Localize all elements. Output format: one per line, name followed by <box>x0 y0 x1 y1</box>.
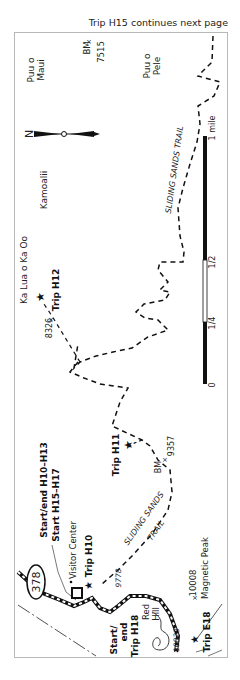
trail-map: 378 ★ ★ ★ ★ N 0 1/4 1/2 1 mile Puu o Mau… <box>0 0 240 680</box>
magnetic-peak-label: Magnetic Peak <box>200 537 210 599</box>
start-end-h18-label-1: Start/ <box>109 625 119 655</box>
start-end-h18-label-3: Trip H18 <box>130 615 140 657</box>
bm-9357-x: × <box>162 456 168 464</box>
red-hill-label-1: Red <box>141 604 151 620</box>
puu-o-maui-label-2: Maui <box>36 59 46 81</box>
scale-half: 1/2 <box>208 256 217 269</box>
sliding-sands-trail-lower-label-2: TRAIL <box>146 519 166 543</box>
sliding-sands-trail-lower-label-1: SLIDING SANDS <box>122 490 165 547</box>
sliding-sands-trail-label: SLIDING SANDS TRAIL <box>164 125 185 214</box>
north-arrow-icon <box>34 131 100 137</box>
route-378-label: 378 <box>30 572 43 593</box>
bm-9357-label-2: 9357 <box>167 436 176 456</box>
bm-7515-label-2: 7515 <box>96 41 106 63</box>
start-end-h10-h13-label: Start/end H10–H13 <box>39 442 49 538</box>
start-end-h18-label-2: end <box>119 623 129 642</box>
sliding-sands-trail-path <box>74 36 220 368</box>
elev-10008-label: 10008 <box>188 569 198 596</box>
scale-quarter: 1/4 <box>208 317 217 330</box>
scale-0: 0 <box>208 382 217 387</box>
ka-lua-o-ka-oo-label: Ka Lua o Ka Oo <box>19 235 29 304</box>
park-boundary-line <box>18 605 96 656</box>
bm-7515-x: × <box>86 38 92 46</box>
trip-h11-label: Trip H11 <box>111 434 121 476</box>
scale-1-mile: 1 mile <box>208 116 217 141</box>
elev-10023-label: 10023 <box>172 628 181 652</box>
puu-o-pele-label-1: Puu o <box>142 53 152 79</box>
kamoalii-label: Kamoalii <box>39 171 49 210</box>
puu-o-maui-label-1: Puu o <box>26 57 36 83</box>
north-label: N <box>23 130 36 138</box>
red-hill-label-2: Hill <box>151 607 161 620</box>
trip-h12-star-icon: ★ <box>34 292 47 302</box>
elev-9778-label: 9778 <box>114 568 123 587</box>
elev-8326-x: × <box>48 316 54 324</box>
start-h15-h17-label: Start H15–H17 <box>51 468 61 541</box>
trip-h10-label: Trip H10 <box>84 535 94 577</box>
visitor-center-icon <box>72 588 82 598</box>
trip-h11-star-icon: ★ <box>122 440 135 450</box>
trip-h10-star-icon: ★ <box>83 581 94 590</box>
trip-e18-label: Trip E18 <box>202 612 212 653</box>
puu-o-pele-label-2: Pele <box>152 56 162 75</box>
trip-h12-label: Trip H12 <box>51 269 61 311</box>
scale-bar <box>203 136 207 384</box>
trip-e18-star-icon: ★ <box>189 635 200 644</box>
elev-10008-x: × <box>192 594 198 602</box>
visitor-center-label: Visitor Center <box>68 520 78 579</box>
